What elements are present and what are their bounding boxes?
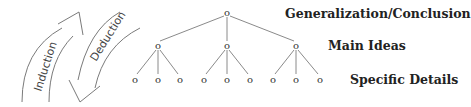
main-idea-node: o: [293, 40, 299, 51]
detail-node: o: [132, 74, 138, 85]
induction-arrow: Induction: [22, 12, 83, 102]
deduction-arrowhead-icon: [69, 80, 100, 102]
detail-node: o: [270, 74, 276, 85]
root-node: o: [224, 7, 230, 18]
level-label-generalization: Generalization/Conclusion: [285, 6, 471, 21]
induction-label: Induction: [31, 40, 59, 93]
detail-node: o: [293, 74, 299, 85]
main-idea-node: o: [155, 40, 161, 51]
level-label-main-ideas: Main Ideas: [328, 38, 406, 53]
detail-node: o: [317, 74, 323, 85]
induction-arrowhead-icon: [58, 12, 83, 35]
level-label-specific-details: Specific Details: [350, 72, 458, 87]
deduction-arrow: Deduction: [69, 9, 140, 102]
detail-node: o: [155, 74, 161, 85]
main-idea-node: o: [224, 40, 230, 51]
detail-node: o: [201, 74, 207, 85]
detail-node: o: [224, 74, 230, 85]
detail-node: o: [177, 74, 183, 85]
detail-node: o: [247, 74, 253, 85]
